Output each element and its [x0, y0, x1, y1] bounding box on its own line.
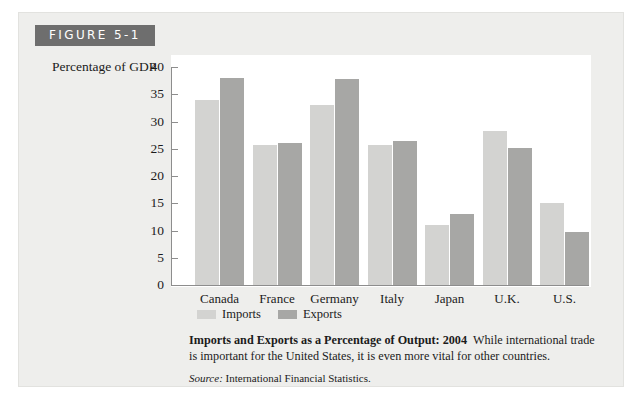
x-axis-label: Japan — [435, 291, 465, 307]
chart-legend: Imports Exports — [197, 307, 342, 322]
legend-swatch-exports — [278, 310, 297, 319]
bar-imports — [540, 203, 564, 285]
x-axis-label: Italy — [380, 291, 404, 307]
bar-group — [195, 67, 244, 285]
bar-exports — [450, 214, 474, 285]
source-label: Source: — [189, 372, 223, 384]
x-axis-label: U.K. — [494, 291, 519, 307]
y-tick-mark — [172, 203, 178, 204]
bar-imports — [368, 145, 392, 285]
bar-group — [310, 67, 359, 285]
chart-plot-area: 0510152025303540 CanadaFranceGermanyItal… — [171, 55, 591, 287]
caption-title: Imports and Exports as a Percentage of O… — [189, 333, 467, 347]
y-tick-mark — [172, 285, 178, 286]
y-tick-mark — [172, 67, 178, 68]
bar-group — [368, 67, 417, 285]
x-axis-label: Germany — [310, 291, 358, 307]
y-tick-label: 40 — [151, 59, 165, 75]
y-tick-label: 25 — [151, 141, 165, 157]
legend-item-exports: Exports — [278, 307, 342, 322]
y-tick-mark — [172, 149, 178, 150]
caption-block: Imports and Exports as a Percentage of O… — [189, 333, 601, 384]
source-line: Source: International Financial Statisti… — [189, 372, 601, 384]
x-axis-label: France — [259, 291, 294, 307]
legend-item-imports: Imports — [197, 307, 261, 322]
bar-exports — [393, 141, 417, 285]
bar-exports — [335, 79, 359, 285]
y-tick-mark — [172, 122, 178, 123]
y-tick-label: 30 — [151, 114, 165, 130]
legend-label-imports: Imports — [222, 307, 261, 322]
bar-imports — [253, 145, 277, 285]
y-tick-mark — [172, 258, 178, 259]
bar-exports — [278, 143, 302, 285]
bar-exports — [508, 148, 532, 285]
y-tick-label: 5 — [157, 250, 164, 266]
bar-exports — [220, 78, 244, 285]
figure-card: FIGURE 5-1 Percentage of GDP 05101520253… — [18, 12, 624, 387]
bar-imports — [483, 131, 507, 285]
x-axis-line — [171, 285, 589, 286]
bar-imports — [425, 225, 449, 285]
y-tick-label: 15 — [151, 195, 165, 211]
y-tick-label: 10 — [151, 223, 165, 239]
bar-group — [483, 67, 532, 285]
bar-group — [425, 67, 474, 285]
caption-paragraph: Imports and Exports as a Percentage of O… — [189, 333, 601, 364]
legend-label-exports: Exports — [303, 307, 342, 322]
y-tick-label: 0 — [157, 277, 164, 293]
bar-exports — [565, 232, 589, 285]
y-tick-label: 20 — [151, 168, 165, 184]
legend-swatch-imports — [197, 310, 216, 319]
y-tick-mark — [172, 231, 178, 232]
x-axis-label: Canada — [200, 291, 239, 307]
y-tick-mark — [172, 94, 178, 95]
y-tick-mark — [172, 176, 178, 177]
source-text: International Financial Statistics. — [226, 372, 371, 384]
bar-group — [253, 67, 302, 285]
bar-group — [540, 67, 589, 285]
bar-imports — [195, 100, 219, 285]
y-tick-label: 35 — [151, 86, 165, 102]
y-axis-title: Percentage of GDP — [52, 59, 156, 75]
bar-imports — [310, 105, 334, 285]
x-axis-label: U.S. — [553, 291, 576, 307]
figure-number-tab: FIGURE 5-1 — [35, 25, 155, 46]
